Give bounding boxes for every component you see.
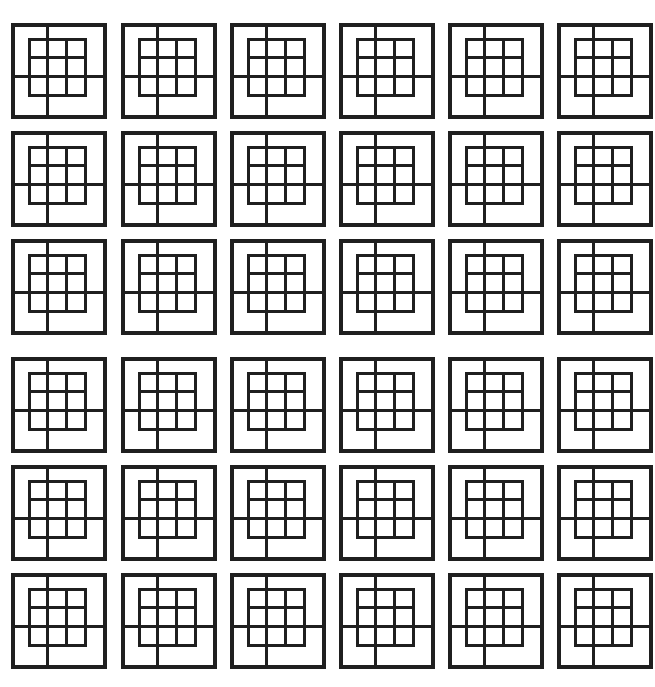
inner-grid-frame <box>357 481 413 537</box>
pattern-canvas <box>0 0 655 687</box>
inner-grid-frame <box>575 481 631 537</box>
inner-grid-frame <box>248 373 304 429</box>
inner-grid-frame <box>466 39 522 95</box>
inner-grid-frame <box>139 481 195 537</box>
inner-grid-frame <box>466 481 522 537</box>
inner-grid-frame <box>466 255 522 311</box>
inner-grid-frame <box>575 147 631 203</box>
inner-grid-frame <box>357 589 413 645</box>
inner-grid-frame <box>29 255 85 311</box>
inner-grid-frame <box>139 39 195 95</box>
inner-grid-frame <box>575 589 631 645</box>
inner-grid-frame <box>139 255 195 311</box>
inner-grid-frame <box>466 147 522 203</box>
inner-grid-frame <box>466 373 522 429</box>
inner-grid-frame <box>139 373 195 429</box>
inner-grid-frame <box>357 39 413 95</box>
inner-grid-frame <box>29 589 85 645</box>
inner-grid-frame <box>139 589 195 645</box>
inner-grid-frame <box>248 147 304 203</box>
inner-grid-frame <box>357 373 413 429</box>
inner-grid-frame <box>29 147 85 203</box>
inner-grid-frame <box>575 39 631 95</box>
inner-grid-frame <box>466 589 522 645</box>
inner-grid-frame <box>357 147 413 203</box>
inner-grid-frame <box>29 39 85 95</box>
inner-grid-frame <box>248 39 304 95</box>
inner-grid-frame <box>575 255 631 311</box>
inner-grid-frame <box>29 373 85 429</box>
inner-grid-frame <box>248 589 304 645</box>
inner-grid-frame <box>575 373 631 429</box>
inner-grid-frame <box>248 481 304 537</box>
inner-grid-frame <box>357 255 413 311</box>
inner-grid-frame <box>248 255 304 311</box>
background <box>0 0 655 687</box>
inner-grid-frame <box>29 481 85 537</box>
inner-grid-frame <box>139 147 195 203</box>
